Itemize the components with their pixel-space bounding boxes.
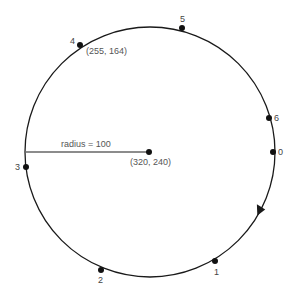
radius-label: radius = 100 xyxy=(61,139,111,149)
point-label: 5 xyxy=(180,14,185,24)
point-label: 1 xyxy=(214,267,219,277)
point-1: 1 xyxy=(212,258,219,277)
center-coord-label: (320, 240) xyxy=(130,157,171,167)
center-point xyxy=(146,149,152,155)
point-label: 2 xyxy=(98,275,103,285)
point-label: 6 xyxy=(274,113,279,123)
point-label: 4 xyxy=(70,36,75,46)
point-5: 5 xyxy=(179,14,185,31)
point-0: 0 xyxy=(270,147,283,157)
point-4-coord-label: (255, 164) xyxy=(86,46,127,56)
point-6: 6 xyxy=(266,113,279,123)
circle-diagram: radius = 100 (320, 240) 0 1 2 3 4 (255, … xyxy=(0,0,300,299)
direction-arrow-icon xyxy=(255,204,265,216)
point-4: 4 (255, 164) xyxy=(70,36,127,56)
point-label: 3 xyxy=(15,162,20,172)
point-label: 0 xyxy=(278,147,283,157)
point-2: 2 xyxy=(98,267,104,285)
